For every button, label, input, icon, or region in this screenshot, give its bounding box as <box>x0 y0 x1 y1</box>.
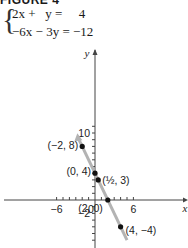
data-point <box>80 144 85 149</box>
data-point <box>92 171 97 176</box>
point-label: (4, −4) <box>126 224 157 236</box>
y-axis-label: y <box>84 47 90 59</box>
x-tick-label: 6 <box>130 203 136 215</box>
data-point <box>96 177 101 182</box>
y-axis-arrow-icon <box>93 49 98 55</box>
point-label: (0, 4) <box>66 165 91 177</box>
point-label: (−2, 8) <box>48 139 79 151</box>
data-point <box>118 224 123 229</box>
plot-area: −60610−2xy(−2, 8)(0, 4)(½, 3)(2, 0)(4, −… <box>0 0 188 248</box>
data-point <box>105 197 110 202</box>
x-tick-label: −6 <box>51 203 63 215</box>
point-label: (2, 0) <box>78 202 103 214</box>
point-label: (½, 3) <box>102 174 129 186</box>
x-axis-label: x <box>182 202 188 214</box>
